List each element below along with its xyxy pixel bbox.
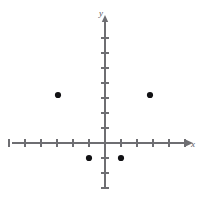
- axis-labels-group: xy: [98, 8, 195, 149]
- data-point: [86, 155, 92, 161]
- plot-canvas: xy: [0, 0, 207, 199]
- data-point: [118, 155, 124, 161]
- data-points-group: [55, 92, 153, 161]
- data-point: [55, 92, 61, 98]
- ticks-group: [9, 38, 185, 188]
- x-axis-label: x: [190, 139, 195, 149]
- data-point: [147, 92, 153, 98]
- y-axis-label: y: [98, 8, 103, 18]
- coordinate-plane-figure: xy: [0, 0, 207, 199]
- axes-group: [12, 15, 193, 188]
